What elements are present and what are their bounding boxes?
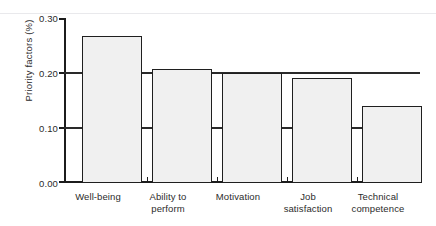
x-tick-mark-3 [287,177,288,183]
x-tick-mark-2 [217,177,218,183]
y-tick-label-0.20: 0.20 [28,68,58,79]
x-label-line: competence [322,203,434,215]
y-tick-mark-0.20 [59,72,64,74]
y-tick-label-0.00: 0.00 [28,178,58,189]
y-axis-line [64,18,66,183]
y-tick-label-0.30: 0.30 [28,13,58,24]
bar-chart-figure: Priority factors (%) 0.30 0.20 0.10 0.00… [0,0,436,226]
y-tick-label-0.10: 0.10 [28,123,58,134]
y-tick-mark-0.10 [59,127,64,129]
y-tick-mark-0.30 [59,18,64,20]
x-tick-mark-4 [357,177,358,183]
x-tick-mark-1 [147,177,148,183]
bar-technical-competence [362,106,422,183]
x-label-line: perform [112,203,224,215]
bar-motivation [222,73,282,183]
bar-well-being [82,36,142,183]
bar-ability-to-perform [152,69,212,183]
y-tick-mark-0.00 [59,181,64,183]
plot-area [64,18,420,183]
x-label-line: Technical [322,191,434,203]
scan-artifact-line [0,13,436,14]
bar-job-satisfaction [292,78,352,183]
x-label-technical-competence: Technical competence [322,191,434,214]
